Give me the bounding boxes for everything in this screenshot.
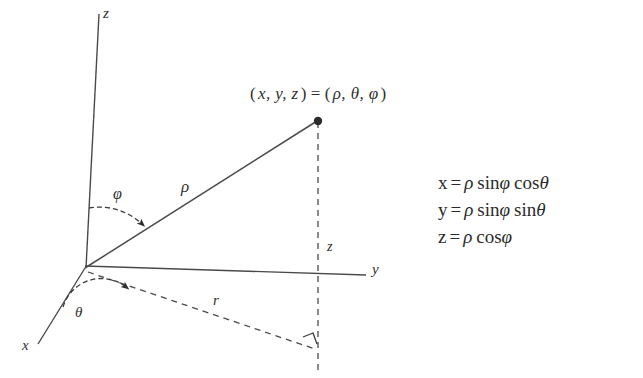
equation-x-fn1: sin <box>473 172 499 193</box>
equation-x-arg2: θ <box>539 172 548 193</box>
rho-label: ρ <box>181 178 189 195</box>
equation-y-fn2: sin <box>510 199 536 220</box>
equation-x-arg1: φ <box>500 172 511 193</box>
paren-close-spherical: ) <box>378 84 388 103</box>
equation-y-arg1: φ <box>500 199 511 220</box>
equation-y-variable: y <box>438 199 448 220</box>
theta-angle-arc <box>63 278 126 307</box>
theta-label: θ <box>75 305 82 320</box>
equation-x: x=ρsinφcosθ <box>438 170 549 197</box>
equation-z-arg1: φ <box>502 226 513 247</box>
equation-z-fn1: cos <box>472 226 501 247</box>
equation-y-arg2: θ <box>536 199 545 220</box>
equation-y-fn1: sin <box>473 199 499 220</box>
paren-close-cartesian: ) <box>299 84 309 103</box>
equation-z: z=ρcosφ <box>438 224 549 251</box>
right-angle-marker <box>303 333 317 344</box>
z-projection-label: z <box>327 240 332 254</box>
point-marker <box>314 117 322 125</box>
axis-label-y: y <box>372 262 379 277</box>
cartesian-triple: x, y, z <box>258 84 299 103</box>
paren-open-spherical: ( <box>323 84 333 103</box>
equation-y-rho: ρ <box>464 199 473 220</box>
phi-label: φ <box>113 186 122 202</box>
equation-x-fn2: cos <box>510 172 539 193</box>
axis-label-z: z <box>103 6 109 21</box>
equation-x-variable: x <box>438 172 448 193</box>
conversion-equations: x=ρsinφcosθ y=ρsinφsinθ z=ρcosφ <box>438 170 549 251</box>
equation-z-operator: = <box>446 226 463 247</box>
equation-y-operator: = <box>448 199 465 220</box>
equation-y: y=ρsinφsinθ <box>438 197 549 224</box>
r-label: r <box>213 293 219 308</box>
equation-z-rho: ρ <box>463 226 472 247</box>
axis-label-x: x <box>22 338 29 353</box>
equation-x-rho: ρ <box>464 172 473 193</box>
equals-sign: = <box>309 84 323 103</box>
y-axis-line <box>85 266 366 275</box>
spherical-coordinates-figure: z y x ρ φ θ r z (x, y, z)=(ρ, θ, φ) x=ρs… <box>0 0 643 378</box>
equation-x-operator: = <box>448 172 465 193</box>
phi-angle-arc <box>89 207 142 224</box>
point-coordinate-label: (x, y, z)=(ρ, θ, φ) <box>248 84 389 104</box>
z-axis-line <box>86 14 99 268</box>
paren-open-cartesian: ( <box>248 84 258 103</box>
spherical-triple: ρ, θ, φ <box>333 84 379 103</box>
